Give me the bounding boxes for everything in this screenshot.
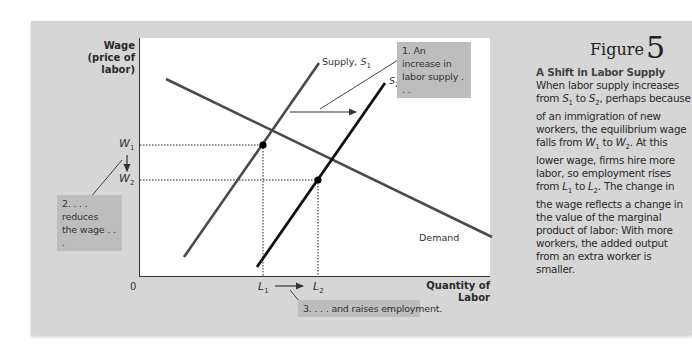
equilibrium-point-1 — [259, 141, 266, 148]
callout-2-line-1: 2. . . . reduces — [62, 197, 117, 223]
callout-1-line-1: 1. An increase in — [402, 44, 466, 70]
caption-var: W — [585, 136, 595, 148]
callout-1: 1. An increase in labor supply . . . — [397, 42, 471, 98]
tick-w1-base: W — [119, 137, 130, 150]
tick-l1: L1 — [258, 280, 269, 295]
figure-caption: A Shift in Labor Supply When labor suppl… — [536, 66, 692, 276]
label-demand: Demand — [419, 232, 459, 243]
x-axis-title-line-1: Quantity of — [420, 280, 490, 292]
tick-w2-sub: 2 — [130, 179, 134, 187]
y-axis-title-line-2: (price of — [70, 52, 135, 64]
origin-label: 0 — [130, 281, 136, 292]
caption-text: to — [600, 136, 616, 148]
tick-w2-base: W — [119, 172, 130, 185]
caption-body: When labor supply increases from S1 to S… — [536, 79, 692, 276]
callout-3: 3. . . . and raises employment. — [298, 300, 420, 317]
y-axis-title-line-1: Wage — [70, 40, 135, 52]
callout-2: 2. . . . reduces the wage . . . — [57, 195, 122, 251]
callout-2-line-2: the wage . . . — [62, 223, 117, 249]
caption-var: W — [616, 136, 626, 148]
tick-w2: W2 — [119, 172, 134, 187]
tick-w1-sub: 1 — [130, 144, 134, 152]
figure-label: Figure — [590, 40, 644, 59]
callout-1-line-2: labor supply . . . — [402, 70, 466, 96]
y-axis-title: Wage (price of labor) — [70, 40, 135, 76]
figure-number: 5 — [646, 30, 665, 65]
x-axis-title: Quantity of Labor — [420, 280, 490, 304]
tick-l2: L2 — [313, 280, 324, 295]
label-supply-s1-prefix: Supply, — [322, 56, 360, 67]
tick-w1: W1 — [119, 137, 134, 152]
caption-title: A Shift in Labor Supply — [536, 66, 692, 79]
caption-text: to — [573, 92, 589, 104]
equilibrium-point-2 — [314, 176, 321, 183]
caption-text: . The change in the wage reflects a chan… — [536, 180, 683, 275]
label-supply-s1: Supply, S1 — [322, 56, 371, 70]
figure-title: Figure5 — [590, 30, 665, 65]
supply-s1-curve — [184, 63, 319, 257]
tick-l2-sub: 2 — [319, 287, 323, 295]
callout-2-leader — [90, 160, 122, 198]
tick-l1-sub: 1 — [264, 287, 268, 295]
y-axis-title-line-3: labor) — [70, 64, 135, 76]
caption-text: to — [572, 180, 588, 192]
label-supply-s1-sub: 1 — [366, 62, 370, 70]
